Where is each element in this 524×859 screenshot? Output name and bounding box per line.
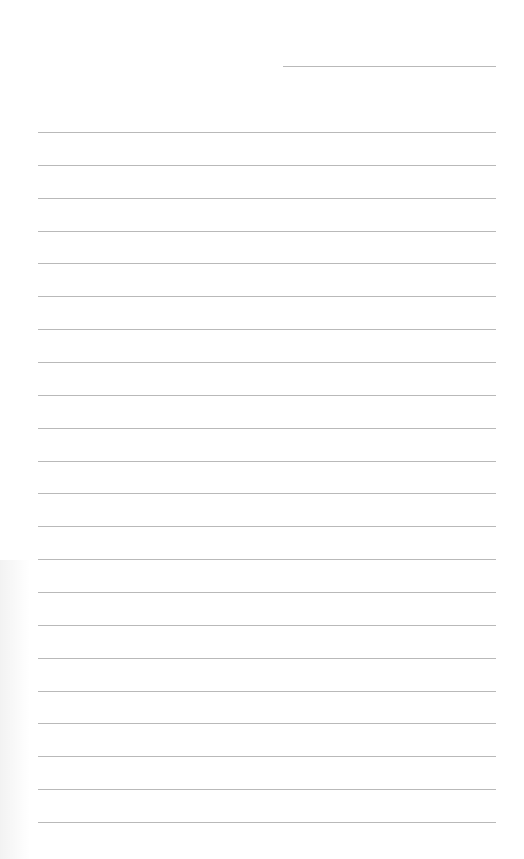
ruled-line <box>38 723 496 724</box>
ruled-line <box>38 789 496 790</box>
ruled-line <box>38 198 496 199</box>
ruled-line <box>38 625 496 626</box>
ruled-line <box>38 756 496 757</box>
ruled-line <box>38 493 496 494</box>
ruled-lines-container <box>0 0 524 859</box>
ruled-line <box>38 362 496 363</box>
ruled-line <box>38 658 496 659</box>
ruled-line <box>38 428 496 429</box>
ruled-line <box>38 263 496 264</box>
ruled-line <box>38 526 496 527</box>
ruled-line <box>38 132 496 133</box>
ruled-line <box>38 329 496 330</box>
ruled-line <box>38 691 496 692</box>
ruled-line <box>38 296 496 297</box>
ruled-line <box>38 395 496 396</box>
ruled-line <box>38 592 496 593</box>
ruled-line <box>38 165 496 166</box>
ruled-line <box>38 822 496 823</box>
ruled-line <box>38 231 496 232</box>
ruled-line <box>38 559 496 560</box>
ruled-line <box>38 461 496 462</box>
